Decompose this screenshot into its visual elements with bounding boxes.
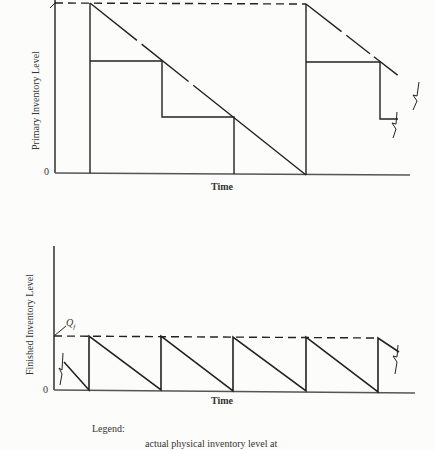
bottom-qf-dashed bbox=[54, 336, 378, 338]
top-zero-tick: 0 bbox=[44, 166, 49, 177]
top-diagonal-2 bbox=[306, 4, 418, 91]
bottom-zero-tick: 0 bbox=[43, 384, 48, 395]
bottom-x-label: Time bbox=[211, 395, 233, 406]
top-y-label: Primary Inventory Level bbox=[30, 51, 41, 150]
diagram-canvas bbox=[0, 0, 435, 450]
legend-line1: actual physical inventory level at bbox=[145, 438, 277, 449]
top-steps-1 bbox=[90, 61, 234, 174]
top-max-dashed bbox=[55, 3, 306, 4]
top-x-label: Time bbox=[211, 181, 233, 192]
legend-title: Legend: bbox=[92, 423, 125, 434]
bottom-y-label: Finished Inventory Level bbox=[24, 274, 35, 375]
top-x-axis bbox=[55, 173, 410, 175]
top-diagonal-1 bbox=[90, 3, 306, 175]
bottom-x-axis bbox=[54, 390, 415, 393]
qf-annotation: Qf bbox=[66, 317, 75, 331]
top-steps-2 bbox=[306, 62, 398, 119]
